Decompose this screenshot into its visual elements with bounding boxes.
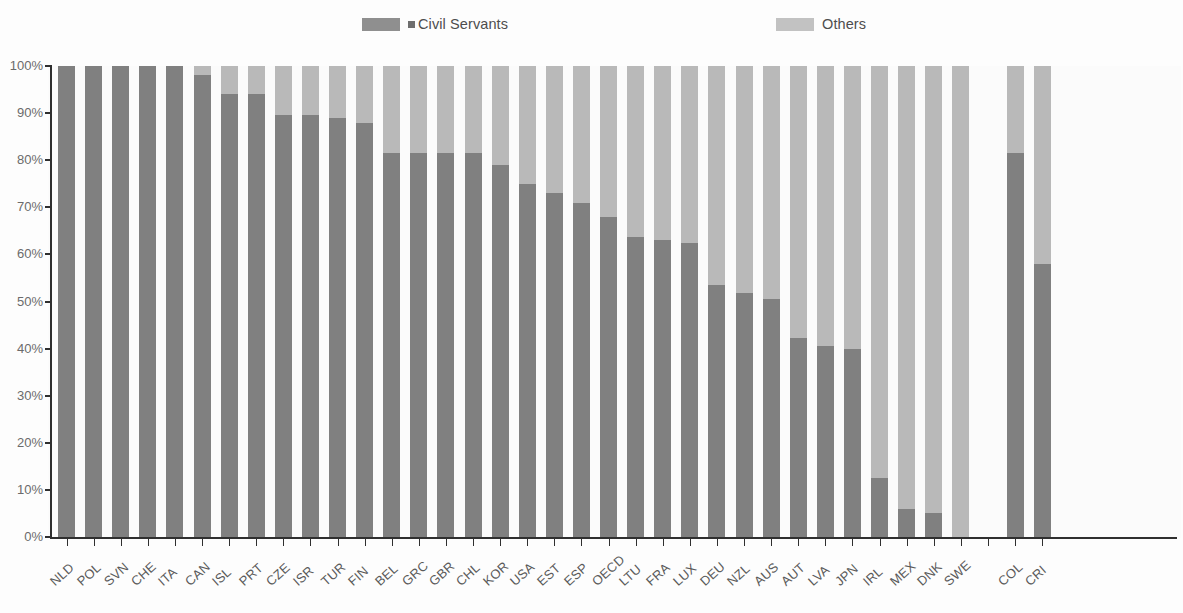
bar-USA[interactable] xyxy=(519,66,536,537)
bar-LTU[interactable] xyxy=(627,66,644,537)
x-tick-mark xyxy=(934,539,935,546)
bar-DEU[interactable] xyxy=(708,66,725,537)
bar-segment-others xyxy=(654,66,671,240)
bar-segment-others xyxy=(194,66,211,75)
bar-CHE[interactable] xyxy=(139,66,156,537)
bar-segment-civil-servants xyxy=(573,203,590,537)
bar-CZE[interactable] xyxy=(275,66,292,537)
bar-segment-civil-servants xyxy=(275,115,292,537)
x-axis-label: FRA xyxy=(643,560,673,589)
x-tick-mark xyxy=(717,539,718,546)
legend-label-civil-servants: Civil Servants xyxy=(418,16,508,32)
bar-GBR[interactable] xyxy=(437,66,454,537)
bar-CAN[interactable] xyxy=(194,66,211,537)
bar-GRC[interactable] xyxy=(410,66,427,537)
y-tick-mark xyxy=(45,112,52,114)
x-axis-label: NLD xyxy=(47,560,77,589)
y-tick-label: 50% xyxy=(3,294,43,309)
bar-LUX[interactable] xyxy=(681,66,698,537)
y-tick-mark xyxy=(45,253,52,255)
x-tick-mark xyxy=(798,539,799,546)
x-axis-label: ITA xyxy=(155,564,180,588)
x-tick-mark xyxy=(852,539,853,546)
y-tick-label: 0% xyxy=(3,529,43,544)
bar-segment-civil-servants xyxy=(112,66,129,537)
x-tick-mark xyxy=(148,539,149,546)
bar-OECD[interactable] xyxy=(600,66,617,537)
x-axis-label: ISR xyxy=(290,563,317,589)
x-axis-label: MEX xyxy=(887,558,918,588)
bar-CRI[interactable] xyxy=(1034,66,1051,537)
x-axis-label: CZE xyxy=(263,560,293,589)
x-axis-label: LVA xyxy=(805,562,832,589)
x-tick-mark xyxy=(744,539,745,546)
x-axis-label: CHE xyxy=(128,559,159,589)
legend-swatch-civil-servants xyxy=(362,18,400,31)
y-tick-label: 40% xyxy=(3,341,43,356)
bar-ISL[interactable] xyxy=(221,66,238,537)
y-tick-mark xyxy=(45,65,52,67)
chart-page: Civil Servants Others 100%90%80%70%60%50… xyxy=(0,0,1183,613)
bar-segment-civil-servants xyxy=(302,115,319,537)
bar-segment-others xyxy=(302,66,319,115)
bar-segment-civil-servants xyxy=(736,293,753,537)
bar-segment-civil-servants xyxy=(627,237,644,537)
x-tick-mark xyxy=(175,539,176,546)
x-tick-mark xyxy=(67,539,68,546)
x-axis-label: FIN xyxy=(345,563,371,589)
x-tick-mark xyxy=(825,539,826,546)
bar-FRA[interactable] xyxy=(654,66,671,537)
x-axis-label: ISL xyxy=(209,564,234,589)
bar-EST[interactable] xyxy=(546,66,563,537)
bar-segment-civil-servants xyxy=(519,184,536,537)
bar-IRL[interactable] xyxy=(871,66,888,537)
bar-DNK[interactable] xyxy=(925,66,942,537)
bar-segment-civil-servants xyxy=(654,240,671,537)
bar-NLD[interactable] xyxy=(58,66,75,537)
bar-AUS[interactable] xyxy=(763,66,780,537)
bar-segment-others xyxy=(871,66,888,478)
bar-segment-civil-servants xyxy=(898,509,915,537)
x-axis-label: CHL xyxy=(453,560,483,589)
x-axis-label: USA xyxy=(507,559,537,588)
bar-JPN[interactable] xyxy=(844,66,861,537)
bar-ISR[interactable] xyxy=(302,66,319,537)
bar-BEL[interactable] xyxy=(383,66,400,537)
y-tick-mark xyxy=(45,348,52,350)
bar-ESP[interactable] xyxy=(573,66,590,537)
bar-TUR[interactable] xyxy=(329,66,346,537)
bar-segment-civil-servants xyxy=(85,66,102,537)
bar-segment-others xyxy=(410,66,427,153)
bar-SVN[interactable] xyxy=(112,66,129,537)
x-tick-mark xyxy=(690,539,691,546)
bar-ITA[interactable] xyxy=(166,66,183,537)
bar-KOR[interactable] xyxy=(492,66,509,537)
x-axis-label: DEU xyxy=(697,559,728,589)
bar-segment-others xyxy=(952,66,969,537)
bar-POL[interactable] xyxy=(85,66,102,537)
y-tick-label: 20% xyxy=(3,435,43,450)
bar-MEX[interactable] xyxy=(898,66,915,537)
bar-NZL[interactable] xyxy=(736,66,753,537)
bar-segment-others xyxy=(519,66,536,184)
bar-FIN[interactable] xyxy=(356,66,373,537)
x-axis-label: IRL xyxy=(860,564,886,589)
bar-SWE[interactable] xyxy=(952,66,969,537)
bar-segment-others xyxy=(1007,66,1024,153)
bar-segment-others xyxy=(275,66,292,115)
bar-LVA[interactable] xyxy=(817,66,834,537)
bar-CHL[interactable] xyxy=(465,66,482,537)
bar-segment-civil-servants xyxy=(817,346,834,537)
bar-segment-others xyxy=(898,66,915,509)
bar-segment-others xyxy=(546,66,563,193)
bar-segment-others xyxy=(817,66,834,346)
x-tick-mark xyxy=(636,539,637,546)
bar-AUT[interactable] xyxy=(790,66,807,537)
bar-segment-others xyxy=(573,66,590,203)
bar-segment-civil-servants xyxy=(221,94,238,537)
bar-PRT[interactable] xyxy=(248,66,265,537)
bar-segment-others xyxy=(221,66,238,94)
bar-COL[interactable] xyxy=(1007,66,1024,537)
bar-segment-civil-servants xyxy=(681,243,698,537)
x-axis-label: SWE xyxy=(941,557,973,588)
